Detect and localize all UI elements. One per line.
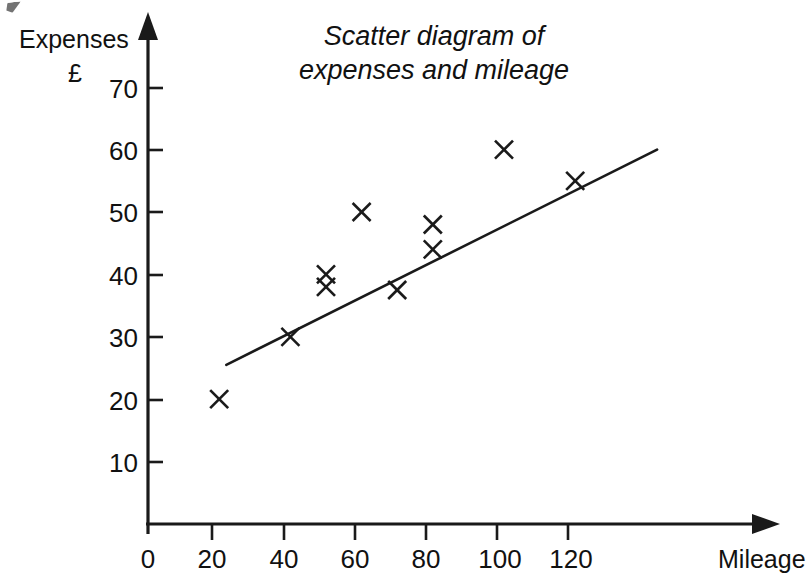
data-point-marker [210,390,228,408]
y-axis-unit-label: £ [68,59,82,87]
mileage-axis [146,514,780,534]
y-axis-tick-labels: 70 60 50 40 30 20 10 [109,74,138,478]
x-tick-label: 20 [198,544,227,574]
y-tick-label: 60 [109,136,138,166]
chart-title-line-2: expenses and mileage [299,55,569,85]
chart-title-line-1: Scatter diagram of [324,21,547,51]
data-point-marker [495,141,513,159]
x-tick-label: 80 [412,544,441,574]
data-point-marker [353,203,371,221]
data-point-marker [424,215,442,233]
y-tick-label: 70 [109,74,138,104]
x-axis-tick-labels: 0 20 40 60 80 100 120 [141,544,593,574]
x-tick-label: 40 [270,544,299,574]
y-tick-label: 30 [109,323,138,353]
y-axis-arrow-icon [138,12,158,40]
x-tick-label: 120 [549,544,592,574]
x-tick-label: 0 [141,544,155,574]
y-axis-title: Expenses [19,25,129,53]
y-tick-label: 40 [109,261,138,291]
x-axis-ticks [212,524,568,540]
y-tick-label: 20 [109,386,138,416]
x-tick-label: 100 [478,544,521,574]
data-point-marker [317,278,335,296]
y-tick-label: 50 [109,198,138,228]
y-tick-label: 10 [109,448,138,478]
y-axis-ticks [148,88,163,462]
data-point-marker [424,240,442,258]
x-tick-label: 60 [341,544,370,574]
x-axis-arrow-icon [752,514,780,534]
x-axis-title: Mileage [718,545,806,573]
data-point-marker [566,172,584,190]
data-point-markers [210,141,584,409]
scatter-diagram-page: 70 60 50 40 30 20 10 0 20 40 60 80 100 1… [0,0,807,574]
expenses-axis [138,12,158,534]
chart-canvas: 70 60 50 40 30 20 10 0 20 40 60 80 100 1… [0,0,807,574]
data-point-marker [388,281,406,299]
chart-title: Scatter diagram of expenses and mileage [299,21,569,85]
